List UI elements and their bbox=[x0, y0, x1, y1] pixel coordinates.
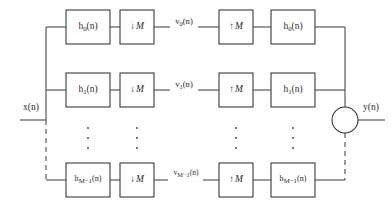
row0-subband-signal-label: v0(n) bbox=[175, 17, 193, 27]
row0-synthesis-filter-label: h0(n) bbox=[283, 22, 302, 33]
row0-decimator-label: ↓M bbox=[130, 22, 144, 32]
output-label-yn: y(n) bbox=[363, 103, 379, 113]
row1-signal-tail: (n) bbox=[183, 79, 193, 89]
row0-interpolator-factor: M bbox=[234, 21, 243, 31]
row2-interpolator-label: ↑M bbox=[229, 175, 243, 185]
row1-analysis-filter-label: h1(n) bbox=[78, 85, 97, 96]
diagram-canvas: x(n) y(n) h0(n) ↓M v0(n) ↑M h0(n) h1(n) … bbox=[0, 0, 391, 212]
ellipsis-column-analysis bbox=[87, 127, 89, 149]
row2-decimator-label: ↓M bbox=[130, 175, 144, 185]
row1-decimator-factor: M bbox=[135, 84, 144, 94]
row2-synthesis-tail: (n) bbox=[297, 174, 307, 183]
row0-decimator-factor: M bbox=[135, 21, 144, 31]
row0-analysis-filter-label: h0(n) bbox=[78, 22, 97, 33]
row1-subband-signal-label: v1(n) bbox=[175, 80, 193, 90]
row0-signal-tail: (n) bbox=[183, 16, 193, 26]
diagram-vector-layer bbox=[0, 0, 391, 212]
row1-analysis-tail: (n) bbox=[87, 84, 98, 94]
row2-synthesis-filter-label: hM−1(n) bbox=[280, 175, 307, 185]
row0-synthesis-tail: (n) bbox=[292, 21, 303, 31]
row1-interpolator-factor: M bbox=[234, 84, 243, 94]
row2-decimator-factor: M bbox=[135, 174, 144, 184]
row2-analysis-sub: M−1 bbox=[79, 177, 92, 184]
row2-synthesis-sub: M−1 bbox=[284, 177, 297, 184]
row2-signal-sub: M−1 bbox=[177, 171, 189, 178]
row1-decimator-label: ↓M bbox=[130, 85, 144, 95]
row2-signal-tail: (n) bbox=[190, 168, 199, 177]
row2-interpolator-factor: M bbox=[234, 174, 243, 184]
row0-interpolator-label: ↑M bbox=[229, 22, 243, 32]
row0-analysis-tail: (n) bbox=[87, 21, 98, 31]
row1-synthesis-filter-label: h1(n) bbox=[283, 85, 302, 96]
ellipsis-column-synthesis bbox=[292, 127, 294, 149]
row2-analysis-tail: (n) bbox=[92, 174, 102, 183]
row1-synthesis-tail: (n) bbox=[292, 84, 303, 94]
ellipsis-column-decimator bbox=[136, 127, 138, 149]
row1-interpolator-label: ↑M bbox=[229, 85, 243, 95]
input-label-xn: x(n) bbox=[23, 103, 39, 113]
row2-analysis-filter-label: hM−1(n) bbox=[75, 175, 102, 185]
ellipsis-column-interpolator bbox=[235, 127, 237, 149]
row2-subband-signal-label: vM−1(n) bbox=[173, 169, 198, 178]
summing-junction[interactable] bbox=[332, 107, 358, 133]
